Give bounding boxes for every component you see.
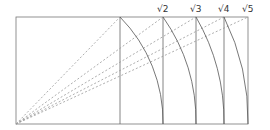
- label-sqrt5: √5: [242, 4, 253, 14]
- label-sqrt4: √4: [218, 4, 230, 14]
- diagonal-2: [16, 17, 163, 124]
- label-sqrt2: √2: [157, 4, 168, 14]
- label-sqrt3: √3: [190, 4, 201, 14]
- diagonal-3: [16, 17, 196, 124]
- diagonals: [16, 17, 248, 124]
- diagonal-5: [16, 17, 248, 124]
- arc-3: [196, 17, 224, 124]
- diagonal-1: [16, 17, 120, 124]
- arc-4: [224, 17, 248, 124]
- arc-2: [163, 17, 196, 124]
- root-rectangles-diagram: √2 √3 √4 √5: [0, 0, 270, 130]
- arcs: [120, 17, 248, 124]
- arc-1: [120, 17, 163, 124]
